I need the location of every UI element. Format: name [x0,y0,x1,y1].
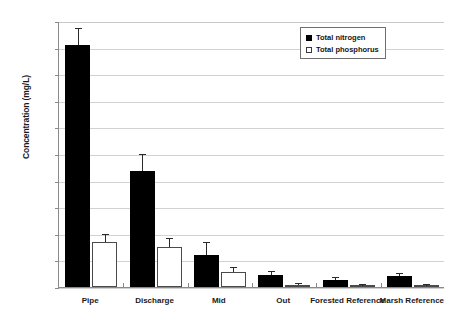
bar-total-nitrogen-pipe [65,45,90,287]
y-tick-mark [55,102,59,103]
x-tick-label: Discharge [135,296,174,305]
error-bar-cap [423,284,430,285]
y-tick-mark [55,128,59,129]
gridline [59,288,444,289]
error-bar [142,155,143,171]
x-tick-label: Marsh Reference [380,296,444,305]
error-bar-cap [102,234,109,235]
error-bar [399,274,400,276]
gridline [59,208,444,209]
legend-label: Total phosphorus [316,45,379,54]
bar-total-nitrogen-mid [194,255,219,287]
error-bar-cap [230,267,237,268]
error-bar-cap [332,277,339,278]
x-tick-mark [316,283,317,287]
error-bar [169,239,170,247]
error-bar-cap [396,273,403,274]
y-tick-mark [55,155,59,156]
error-bar-cap [166,238,173,239]
y-tick-mark [55,288,59,289]
y-tick-mark [55,182,59,183]
error-bar-cap [359,284,366,285]
x-tick-label: Mid [212,296,226,305]
bar-total-nitrogen-marsh-reference [387,276,412,287]
y-tick-mark [55,235,59,236]
error-bar-cap [295,283,302,284]
x-tick-mark [381,283,382,287]
error-bar [105,235,106,242]
y-tick-mark [55,75,59,76]
x-tick-label: Forested Reference [310,296,385,305]
bar-chart: Concentration (mg/L) 0.02.04.06.08.010.0… [0,0,456,329]
y-tick-mark [55,208,59,209]
gridline [59,102,444,103]
bar-total-nitrogen-discharge [130,171,155,287]
bar-total-phosphorus-pipe [92,242,117,287]
gridline [59,182,444,183]
x-tick-label: Pipe [82,296,99,305]
bar-total-nitrogen-out [258,275,283,287]
legend-swatch-open-icon [306,47,312,53]
plot-area [58,22,444,288]
error-bar [335,278,336,280]
gridline [59,128,444,129]
bar-total-phosphorus-discharge [157,247,182,287]
x-tick-mark [188,283,189,287]
legend-swatch-filled-icon [306,35,312,41]
error-bar [271,272,272,275]
legend-label: Total nitrogen [316,33,365,42]
error-bar-cap [139,154,146,155]
error-bar [78,29,79,45]
gridline [59,235,444,236]
bar-total-phosphorus-out [285,285,310,287]
y-tick-mark [55,49,59,50]
error-bar-cap [75,28,82,29]
x-tick-mark [123,283,124,287]
legend-item-total-nitrogen: Total nitrogen [306,33,380,42]
x-tick-mark [252,283,253,287]
y-axis-title: Concentration (mg/L) [21,47,31,187]
y-tick-mark [55,261,59,262]
error-bar [206,243,207,255]
error-bar [298,284,299,285]
gridline [59,49,444,50]
x-tick-label: Out [276,296,290,305]
bar-total-phosphorus-mid [221,272,246,287]
error-bar-cap [268,271,275,272]
error-bar-cap [203,242,210,243]
chart-legend: Total nitrogen Total phosphorus [300,27,386,59]
error-bar [233,268,234,272]
gridline [59,75,444,76]
gridline [59,22,444,23]
gridline [59,155,444,156]
bar-total-nitrogen-forested-reference [323,280,348,287]
legend-item-total-phosphorus: Total phosphorus [306,45,380,54]
y-tick-mark [55,22,59,23]
